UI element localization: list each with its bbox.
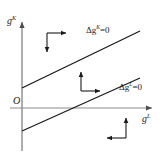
isocline-k-delta: Δg <box>86 25 96 35</box>
arrow-pair-middle <box>81 72 100 91</box>
isocline-delta-g-l-label: ΔgL=0 <box>119 83 142 92</box>
isocline-k-equals-zero: =0 <box>100 25 110 35</box>
x-axis-label-superscript: L <box>147 112 150 119</box>
arrow-pair-upper-left <box>47 33 66 52</box>
phase-diagram-figure: gK gL O ΔgK=0 ΔgL=0 <box>0 0 164 165</box>
origin-label: O <box>13 96 20 106</box>
arrow-pair-lower-right <box>107 118 126 138</box>
isocline-l-delta: Δg <box>119 82 129 92</box>
y-axis-label-superscript: K <box>12 14 16 21</box>
x-axis-label: gL <box>142 114 150 124</box>
isocline-delta-g-k-label: ΔgK=0 <box>86 26 110 35</box>
isocline-l-equals-zero: =0 <box>132 82 142 92</box>
y-axis-label: gK <box>7 16 16 26</box>
